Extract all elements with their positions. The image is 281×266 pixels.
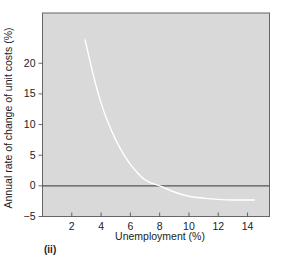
y-tick-label: 15 xyxy=(24,87,36,99)
phillips-curve-chart: 2468101214 −505101520 Unemployment (%) A… xyxy=(0,0,281,266)
y-tick-label: 10 xyxy=(24,118,36,130)
y-axis-ticks: −505101520 xyxy=(24,57,43,222)
y-tick-label: 20 xyxy=(24,57,36,69)
x-tick-label: 4 xyxy=(98,220,104,232)
y-axis-title: Annual rate of change of unit costs (%) xyxy=(2,28,14,209)
x-axis-title: Unemployment (%) xyxy=(115,230,205,242)
y-tick-label: 5 xyxy=(30,149,36,161)
y-tick-label: 0 xyxy=(30,179,36,191)
x-tick-label: 2 xyxy=(69,220,75,232)
x-tick-label: 14 xyxy=(242,220,254,232)
y-tick-label: −5 xyxy=(24,210,36,222)
panel-label: (ii) xyxy=(44,244,56,255)
x-tick-label: 12 xyxy=(212,220,224,232)
